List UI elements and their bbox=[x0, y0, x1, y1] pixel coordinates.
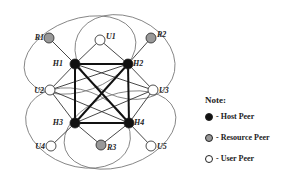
user-peer-u5 bbox=[146, 141, 156, 151]
legend-label: - User Peer bbox=[216, 154, 254, 163]
legend-label: - Resource Peer bbox=[216, 133, 270, 142]
node-label-u4: U4 bbox=[35, 142, 45, 151]
user-peer-u2 bbox=[45, 85, 55, 95]
legend: Note: - Host Peer - Resource Peer - User… bbox=[205, 95, 270, 174]
user-peer-u1 bbox=[95, 35, 105, 45]
legend-item-resource: - Resource Peer bbox=[205, 132, 270, 143]
legend-title: Note: bbox=[205, 95, 270, 105]
node-label-r2: R2 bbox=[156, 30, 166, 39]
node-label-u3: U3 bbox=[159, 86, 169, 95]
host-peer-icon bbox=[205, 113, 213, 121]
user-peer-icon bbox=[205, 155, 213, 163]
user-peer-u4 bbox=[46, 141, 56, 151]
node-label-h3: H3 bbox=[52, 118, 63, 127]
host-peer-h3 bbox=[70, 118, 80, 128]
host-peer-h4 bbox=[124, 118, 134, 128]
resource-peer-r2 bbox=[146, 33, 156, 43]
node-label-u2: U2 bbox=[34, 86, 44, 95]
node-label-r3: R3 bbox=[106, 143, 116, 152]
resource-peer-icon bbox=[205, 134, 213, 142]
legend-item-user: - User Peer bbox=[205, 153, 270, 164]
cluster-h1 bbox=[13, 1, 147, 108]
user-peer-u3 bbox=[148, 85, 158, 95]
edge-h2-u1 bbox=[100, 40, 128, 64]
resource-peer-r1 bbox=[44, 33, 54, 43]
node-label-h2: H2 bbox=[132, 59, 143, 68]
node-label-r1: R1 bbox=[34, 33, 44, 42]
host-peer-h1 bbox=[70, 59, 80, 69]
node-label-u5: U5 bbox=[157, 142, 167, 151]
node-label-h4: H4 bbox=[133, 118, 144, 127]
legend-item-host: - Host Peer bbox=[205, 111, 270, 122]
network-diagram: H1H2H3H4R1R2R3U1U2U3U4U5 bbox=[0, 0, 200, 179]
nodes: H1H2H3H4R1R2R3U1U2U3U4U5 bbox=[34, 30, 169, 152]
resource-peer-r3 bbox=[96, 140, 106, 150]
host-peer-h2 bbox=[123, 59, 133, 69]
host-edge-h2-h4 bbox=[128, 64, 129, 123]
legend-label: - Host Peer bbox=[216, 112, 254, 121]
node-label-u1: U1 bbox=[106, 32, 116, 41]
node-label-h1: H1 bbox=[52, 59, 63, 68]
